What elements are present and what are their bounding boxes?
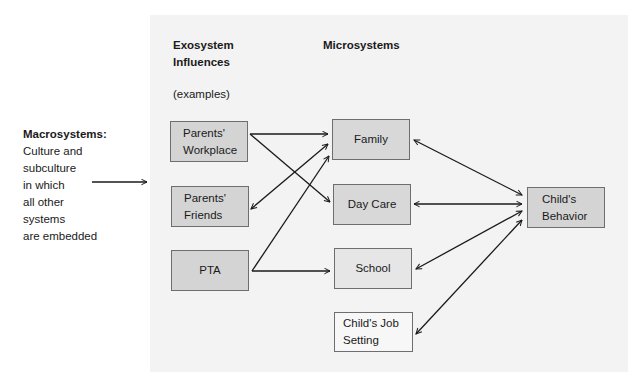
box-label: Family [354,131,388,148]
box-pta: PTA [171,250,249,291]
box-label: Day Care [348,196,397,213]
box-label: Parents' [183,125,237,142]
box-childs-job-setting: Child's Job Setting [334,312,413,352]
exosystem-subheading: (examples) [173,86,230,103]
macrosystems-line: systems [23,211,107,228]
box-label: Parents' [184,190,226,207]
box-school: School [334,248,412,289]
macrosystems-line: all other [23,194,107,211]
box-label: Behavior [542,208,587,225]
box-label: Friends [184,207,226,224]
box-label: School [355,260,390,277]
macrosystems-line: Culture and [23,143,107,160]
box-label: PTA [199,262,221,279]
box-day-care: Day Care [333,184,411,225]
box-label: Child's Job [343,315,399,332]
box-parents-friends: Parents' Friends [171,186,249,227]
box-family: Family [332,119,410,160]
macrosystems-title: Macrosystems: [23,126,107,143]
exosystem-heading-line: Influences [173,54,234,71]
macrosystems-line: are embedded [23,228,107,245]
box-childs-behavior: Child's Behavior [527,187,605,228]
microsystems-heading: Microsystems [323,37,400,54]
box-label: Child's [542,191,587,208]
box-label: Workplace [183,142,237,159]
macrosystems-line: in which [23,177,107,194]
box-label: Setting [343,332,399,349]
exosystem-heading-line: Exosystem [173,37,234,54]
box-parents-workplace: Parents' Workplace [170,121,248,162]
macrosystems-line: subculture [23,160,107,177]
exosystem-heading: Exosystem Influences [173,37,234,71]
macrosystems-label: Macrosystems: Culture and subculture in … [23,126,107,245]
